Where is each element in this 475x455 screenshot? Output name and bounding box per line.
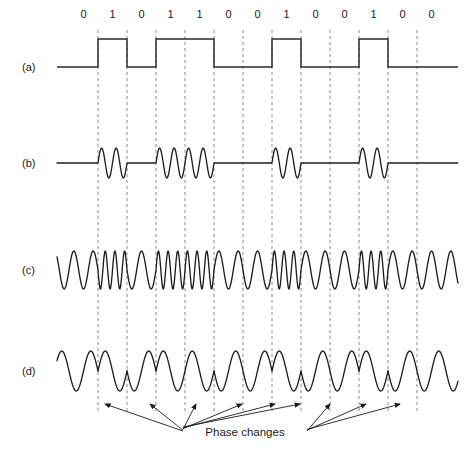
bit-label: 0 (312, 8, 318, 20)
phase-change-arrow (307, 404, 400, 429)
bit-label: 0 (399, 8, 405, 20)
phase-change-arrow (307, 404, 330, 431)
bit-label: 1 (109, 8, 115, 20)
bit-label: 1 (370, 8, 376, 20)
row-label-ask-signal: (b) (22, 157, 35, 169)
bit-label: 0 (254, 8, 260, 20)
psk-signal-trace (57, 351, 458, 391)
fsk-signal-trace (57, 251, 458, 289)
bit-label: 0 (138, 8, 144, 20)
phase-changes-label: Phase changes (205, 426, 285, 438)
phase-change-arrow (150, 404, 183, 430)
bit-label: 1 (196, 8, 202, 20)
ask-signal-trace (57, 148, 458, 178)
bit-label: 0 (341, 8, 347, 20)
waveform-traces (57, 39, 458, 391)
phase-change-arrow (105, 404, 183, 431)
bit-label: 0 (428, 8, 434, 20)
row-label-psk-signal: (d) (22, 365, 35, 377)
bit-label: 0 (80, 8, 86, 20)
figure-canvas: 0101100100100 (a)(b)(c)(d) Phase changes (0, 0, 475, 455)
row-label-fsk-signal: (c) (22, 264, 35, 276)
modulation-figure: 0101100100100 (a)(b)(c)(d) Phase changes (0, 0, 475, 455)
row-label-digital-signal: (a) (22, 61, 35, 73)
bit-label: 1 (283, 8, 289, 20)
bit-label: 0 (225, 8, 231, 20)
digital-signal-trace (57, 39, 458, 67)
bit-label: 1 (167, 8, 173, 20)
phase-change-arrow (307, 404, 366, 430)
bit-label-row: 0101100100100 (80, 8, 434, 20)
phase-change-arrow (183, 404, 300, 427)
row-labels: (a)(b)(c)(d) (22, 61, 35, 377)
